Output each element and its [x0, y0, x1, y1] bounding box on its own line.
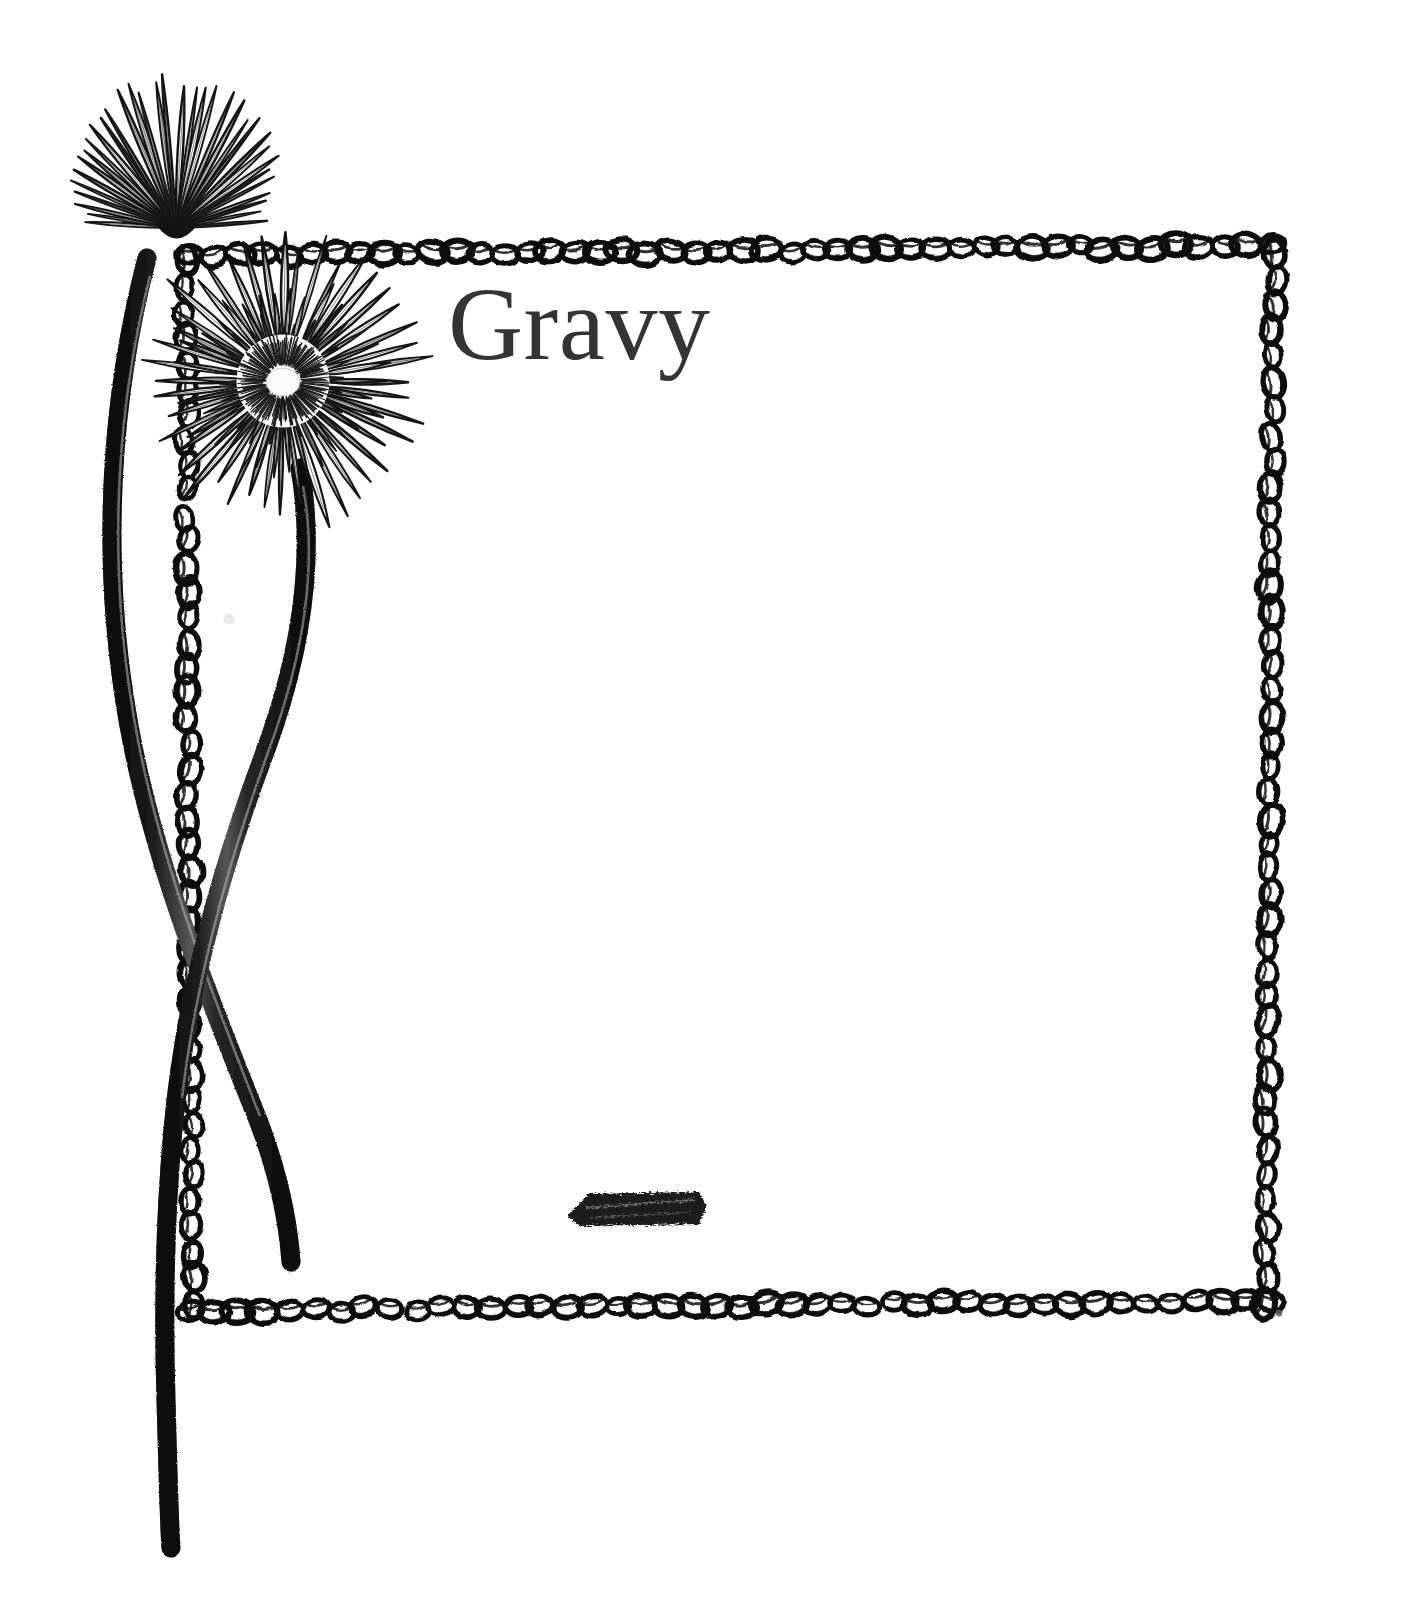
page-marks [223, 614, 1282, 1316]
flower-core [266, 368, 300, 396]
chain-link [277, 1301, 304, 1321]
chain-link [183, 1292, 203, 1319]
chain-border-bottom-links [176, 1288, 1286, 1325]
chain-link [376, 1299, 402, 1319]
chain-link [853, 1296, 880, 1317]
chain-link [1159, 1295, 1184, 1313]
chain-link [349, 1296, 377, 1318]
ink-smudge-icon [568, 1192, 706, 1226]
chain-link [1183, 236, 1213, 259]
gerbera-flower-profile [71, 74, 279, 238]
chain-link [1261, 524, 1281, 552]
page-title: Gravy [448, 272, 710, 376]
chain-link [1133, 1294, 1159, 1313]
chain-link [184, 1112, 204, 1139]
chain-link [948, 239, 973, 257]
botanical-illustration-artwork: top [0, 0, 1419, 1624]
disc-floret [283, 397, 284, 420]
chain-link [1254, 1107, 1277, 1138]
chain-link [1259, 778, 1279, 805]
chain-link [200, 245, 230, 269]
disc-floret [304, 380, 326, 381]
chain-link [1254, 1004, 1281, 1038]
corner-speck-icon [1276, 1310, 1283, 1317]
cookbook-section-divider-page: top [0, 0, 1419, 1624]
chain-border-top-links [176, 232, 1285, 269]
paper-spot-icon [223, 614, 235, 624]
chain-link [303, 1300, 329, 1318]
chain-link [1264, 395, 1286, 423]
chain-border-right-links [1250, 238, 1288, 1322]
